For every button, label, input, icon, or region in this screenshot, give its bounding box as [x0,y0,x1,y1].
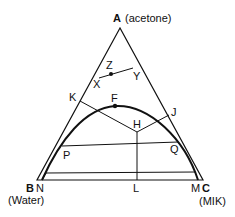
label-p: P [63,149,70,161]
label-q: Q [170,143,179,155]
line-x-y [99,68,133,78]
tie-line-bottom [46,172,195,173]
label-j: J [171,106,177,118]
vertex-b-label: B [26,182,34,194]
label-n: N [36,182,44,194]
vertex-a-name: (acetone) [125,12,171,24]
label-f: F [111,92,118,104]
point-z [109,72,113,76]
vertex-a-label: A [113,12,121,24]
vertex-c-name: (MIK) [199,195,226,207]
point-f [113,104,117,108]
tie-line-pq [62,142,178,146]
label-h: H [133,118,141,130]
ternary-diagram: A (acetone) Z Y X K F H J P Q B N (Water… [0,0,235,217]
label-l: L [133,182,139,194]
label-m: M [191,182,200,194]
label-z: Z [106,59,113,71]
label-x: X [93,78,101,90]
triangle-outline [37,28,203,180]
vertex-c-label: C [202,182,210,194]
label-k: K [69,91,77,103]
label-y: Y [133,70,141,82]
vertex-b-name: (Water) [8,194,44,206]
